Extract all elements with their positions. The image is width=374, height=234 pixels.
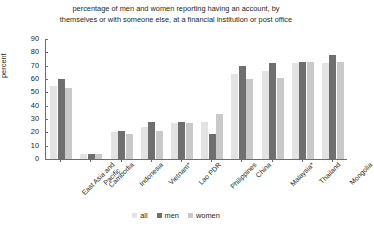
x-tick-label: China [255, 161, 274, 180]
bar-group [50, 39, 72, 159]
x-tick-label: Malaysia* [288, 161, 315, 188]
legend-item-women: women [188, 212, 220, 219]
bar-women [95, 154, 102, 159]
y-tick-label: 0 [35, 155, 39, 162]
bar-men [299, 62, 306, 159]
bar-all [50, 86, 57, 159]
bar-men [239, 66, 246, 159]
bar-group [80, 39, 102, 159]
bar-men [88, 154, 95, 159]
bar-group [201, 39, 223, 159]
y-tick-label: 80 [31, 49, 39, 56]
y-tick-label: 10 [31, 142, 39, 149]
chart-title-line-2: themselves or with someone else, at a fi… [10, 15, 342, 26]
bar-all [80, 154, 87, 159]
bar-all [171, 123, 178, 159]
bar-group [292, 39, 314, 159]
y-tick-label: 50 [31, 89, 39, 96]
bar-group [171, 39, 193, 159]
bar-all [141, 127, 148, 159]
y-tick-label: 60 [31, 75, 39, 82]
x-tick-label: Philippines [229, 161, 259, 191]
bar-group [111, 39, 133, 159]
y-tick-label: 40 [31, 102, 39, 109]
chart-title: percentage of men and women reporting ha… [0, 4, 352, 25]
bar-group [262, 39, 284, 159]
bar-all [322, 63, 329, 159]
y-axis-tick-labels: 9080706050403020100 [0, 39, 43, 159]
bar-men [118, 131, 125, 159]
chart-legend: allmenwomen [0, 212, 352, 219]
x-axis-tick-labels: East Asia and PacificCambodiaIndonesiaVi… [45, 161, 347, 207]
x-tick-label: Lao PDR [197, 161, 223, 187]
bar-women [156, 131, 163, 159]
bar-all [201, 122, 208, 159]
bar-all [262, 71, 269, 159]
bar-men [178, 122, 185, 159]
bar-all [231, 74, 238, 159]
bar-men [148, 122, 155, 159]
bar-women [216, 114, 223, 159]
plot-area [45, 39, 347, 159]
bar-women [65, 88, 72, 159]
legend-swatch-icon [132, 213, 137, 218]
chart-title-line-1: percentage of men and women reporting ha… [10, 4, 342, 15]
bar-group [141, 39, 163, 159]
y-tick-label: 30 [31, 115, 39, 122]
bar-women [307, 62, 314, 159]
y-axis-line [45, 39, 46, 159]
bar-group [322, 39, 344, 159]
bar-group [231, 39, 253, 159]
y-tick-label: 20 [31, 129, 39, 136]
y-tick-label: 70 [31, 62, 39, 69]
legend-label: men [165, 212, 179, 219]
bar-men [329, 55, 336, 159]
bar-women [277, 78, 284, 159]
legend-item-all: all [132, 212, 147, 219]
y-tick-label: 90 [31, 35, 39, 42]
x-tick-label: Vietnam* [167, 161, 193, 187]
x-tick-label: Indonesia [137, 161, 164, 188]
bar-women [126, 134, 133, 159]
x-tick-label: Mongolia [348, 161, 374, 187]
bar-men [58, 79, 65, 159]
bar-men [209, 134, 216, 159]
bar-women [246, 79, 253, 159]
legend-swatch-icon [157, 213, 162, 218]
bar-men [269, 63, 276, 159]
bar-women [186, 123, 193, 159]
bar-all [111, 132, 118, 159]
bar-all [292, 63, 299, 159]
legend-label: women [196, 212, 220, 219]
bar-women [337, 62, 344, 159]
legend-item-men: men [157, 212, 179, 219]
x-tick-label: Thailand [318, 161, 343, 186]
legend-swatch-icon [188, 213, 193, 218]
legend-label: all [140, 212, 147, 219]
